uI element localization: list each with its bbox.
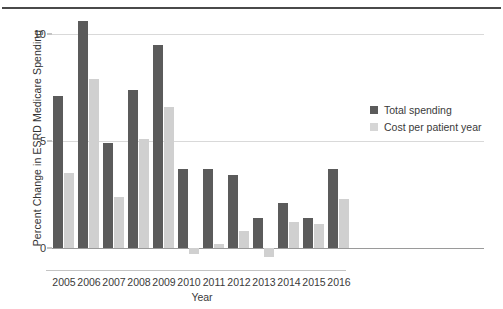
legend-item-cost-per-patient-year: Cost per patient year — [370, 121, 481, 133]
x-axis-title: Year — [52, 291, 352, 303]
bar-cost-per-patient-year-2016 — [339, 199, 349, 248]
bar-group-2005 — [53, 18, 78, 265]
legend-swatch-icon-total-spending — [370, 106, 378, 114]
bar-group-2007 — [103, 18, 128, 265]
x-axis-tick-label-2010: 2010 — [177, 276, 200, 288]
bar-cost-per-patient-year-2010 — [189, 248, 199, 254]
bar-cost-per-patient-year-2009 — [164, 107, 174, 248]
bar-total-spending-2005 — [53, 96, 63, 248]
bar-total-spending-2006 — [78, 21, 88, 248]
chart-figure: Percent Change in ESRD Medicare Spending… — [0, 0, 503, 309]
bar-group-2013 — [253, 18, 278, 265]
bar-total-spending-2010 — [178, 169, 188, 248]
x-axis-tick-label-2015: 2015 — [302, 276, 325, 288]
y-axis-tick-label: 10 — [34, 28, 46, 40]
chart-legend: Total spending Cost per patient year — [370, 104, 481, 138]
bar-total-spending-2015 — [303, 218, 313, 248]
bar-cost-per-patient-year-2005 — [64, 173, 74, 248]
x-axis-tick-label-2011: 2011 — [203, 276, 226, 288]
bar-total-spending-2008 — [128, 90, 138, 248]
bar-group-2006 — [78, 18, 103, 265]
x-axis-line — [46, 270, 346, 271]
bar-total-spending-2013 — [253, 218, 263, 248]
bar-total-spending-2007 — [103, 143, 113, 248]
bar-cost-per-patient-year-2007 — [114, 197, 124, 248]
y-axis-tick-label: 5 — [40, 135, 46, 147]
bar-series-container — [52, 18, 352, 265]
bar-group-2016 — [328, 18, 353, 265]
legend-label-total-spending: Total spending — [384, 104, 452, 116]
x-axis-tick-label-2013: 2013 — [252, 276, 275, 288]
bar-cost-per-patient-year-2008 — [139, 139, 149, 248]
bar-group-2010 — [178, 18, 203, 265]
bar-total-spending-2011 — [203, 169, 213, 248]
x-axis-tick-label-2006: 2006 — [77, 276, 100, 288]
legend-label-cost-per-patient-year: Cost per patient year — [384, 121, 481, 133]
bar-group-2008 — [128, 18, 153, 265]
bar-total-spending-2014 — [278, 203, 288, 248]
bar-cost-per-patient-year-2011 — [214, 244, 224, 248]
bar-cost-per-patient-year-2015 — [314, 224, 324, 248]
x-axis-tick-label-2014: 2014 — [277, 276, 300, 288]
bar-group-2015 — [303, 18, 328, 265]
bar-cost-per-patient-year-2006 — [89, 79, 99, 248]
bar-group-2014 — [278, 18, 303, 265]
x-axis-tick-label-2005: 2005 — [52, 276, 75, 288]
top-divider-rule — [2, 7, 501, 9]
x-axis-tick-label-2008: 2008 — [127, 276, 150, 288]
bar-cost-per-patient-year-2014 — [289, 222, 299, 248]
x-axis-tick-label-2007: 2007 — [102, 276, 125, 288]
bar-group-2009 — [153, 18, 178, 265]
x-axis-tick-label-2009: 2009 — [152, 276, 175, 288]
bar-total-spending-2009 — [153, 45, 163, 248]
bar-cost-per-patient-year-2013 — [264, 248, 274, 257]
bar-group-2011 — [203, 18, 228, 265]
bar-total-spending-2016 — [328, 169, 338, 248]
bar-group-2012 — [228, 18, 253, 265]
x-axis-tick-label-2016: 2016 — [327, 276, 350, 288]
x-axis-tick-label-2012: 2012 — [227, 276, 250, 288]
y-axis-tick-label: 0 — [40, 242, 46, 254]
legend-item-total-spending: Total spending — [370, 104, 481, 116]
plot-area: 0510 — [52, 18, 352, 265]
bar-cost-per-patient-year-2012 — [239, 231, 249, 248]
legend-swatch-icon-cost-per-patient-year — [370, 123, 378, 131]
bar-total-spending-2012 — [228, 175, 238, 248]
